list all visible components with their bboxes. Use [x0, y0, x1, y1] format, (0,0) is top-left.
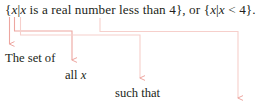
- callout-all-x-prefix: all: [65, 68, 81, 82]
- set-builder-notation-figure: {x|x is a real number less than 4}, or {…: [0, 0, 259, 110]
- callout-label-all-x: all x: [65, 69, 86, 82]
- callout-label-the-set-of: The set of: [5, 52, 55, 65]
- callout-label-such-that: such that: [115, 87, 160, 100]
- callout-all-x-variable: x: [81, 68, 87, 82]
